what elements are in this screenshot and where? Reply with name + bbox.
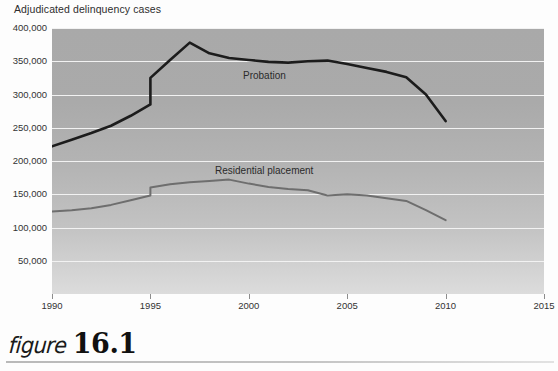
y-axis-tick-label: 200,000 <box>13 156 47 166</box>
x-axis-tick-label: 2015 <box>533 301 554 311</box>
x-axis-tick-label: 2000 <box>238 301 259 311</box>
x-axis-tick-label: 2010 <box>435 301 456 311</box>
x-axis-tick-mark <box>150 294 151 299</box>
series-label-probation: Probation <box>243 70 286 81</box>
series-line-probation <box>52 43 446 147</box>
figure-caption: figure 16.1 <box>8 328 137 362</box>
figure-caption-number: 16.1 <box>73 328 137 359</box>
x-axis-tick-label: 1990 <box>41 301 62 311</box>
chart-title: Adjudicated delinquency cases <box>14 3 161 15</box>
x-axis-tick-mark <box>52 294 53 299</box>
y-axis-labels: 400,000350,000300,000250,000200,000150,0… <box>0 28 47 294</box>
x-axis-tick-mark <box>249 294 250 299</box>
caption-rule <box>6 361 554 363</box>
figure-caption-word: figure <box>8 333 68 358</box>
plot-area <box>52 28 544 294</box>
y-axis-tick-label: 100,000 <box>13 223 47 233</box>
x-axis-tick-mark <box>446 294 447 299</box>
x-axis-tick-mark <box>347 294 348 299</box>
x-axis-tick-label: 1995 <box>140 301 161 311</box>
y-axis-tick-label: 350,000 <box>13 56 47 66</box>
x-axis-tick-label: 2005 <box>337 301 358 311</box>
y-axis-tick-label: 300,000 <box>13 90 47 100</box>
y-axis-tick-label: 400,000 <box>13 23 47 33</box>
figure-page: Adjudicated delinquency cases 400,000350… <box>0 0 558 371</box>
series-line-residential-placement <box>52 180 446 221</box>
y-axis-tick-label: 150,000 <box>13 189 47 199</box>
plot-lines <box>52 28 544 294</box>
y-axis-tick-label: 50,000 <box>18 256 47 266</box>
series-label-residential: Residential placement <box>215 165 313 176</box>
x-axis-labels: 199019952000200520102015 <box>52 301 544 315</box>
y-axis-tick-label: 250,000 <box>13 123 47 133</box>
x-axis-tick-mark <box>544 294 545 299</box>
